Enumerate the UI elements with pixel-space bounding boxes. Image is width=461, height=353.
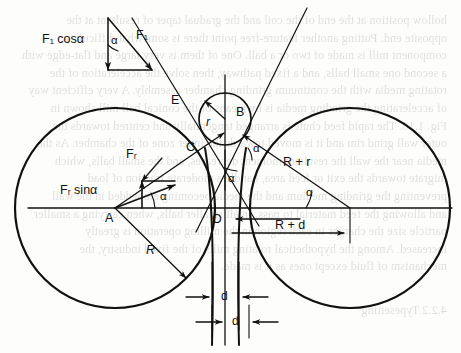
diagram-page: hollow position at the end of the coil a… xyxy=(0,0,461,353)
angle-alpha-arc-right xyxy=(306,192,312,208)
angle-alpha-arc-top xyxy=(108,45,118,51)
angle-alpha-arc-at-c xyxy=(248,148,252,160)
fr-force-vector xyxy=(115,185,175,208)
f1-force-vector xyxy=(108,18,152,70)
radius-r-arrow xyxy=(205,101,225,119)
force-geometry-diagram xyxy=(0,0,461,353)
radius-r-big-arrow xyxy=(115,208,186,278)
angle-alpha-arc-at-a xyxy=(151,193,155,208)
radius-r-plus-r-arrow xyxy=(243,135,350,208)
